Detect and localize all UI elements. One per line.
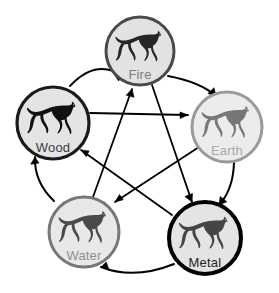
overcoming-arrow-fire-to-metal [152, 85, 193, 202]
node-label-metal: Metal [189, 255, 222, 270]
generating-arrow-metal-to-water [101, 262, 174, 273]
element-nodes: FireWoodEarthWaterMetal [17, 17, 262, 274]
overcoming-arrow-wood-to-earth [90, 112, 188, 118]
node-label-water: Water [66, 248, 102, 263]
node-label-wood: Wood [36, 140, 71, 155]
node-label-earth: Earth [211, 143, 243, 158]
diagram-canvas: FireWoodEarthWaterMetal [0, 0, 279, 293]
generating-arrow-water-to-wood [31, 157, 54, 201]
node-label-fire: Fire [128, 67, 151, 82]
element-node-wood[interactable]: Wood [17, 87, 89, 159]
element-node-fire[interactable]: Fire [106, 17, 174, 85]
generating-arrow-fire-to-earth [168, 76, 216, 96]
element-node-water[interactable]: Water [49, 197, 119, 267]
generating-arrow-earth-to-metal [219, 163, 234, 205]
five-element-cycle-diagram: FireWoodEarthWaterMetal [0, 0, 279, 293]
element-node-metal[interactable]: Metal [169, 202, 241, 274]
overcoming-arrow-water-to-fire [93, 89, 134, 197]
overcoming-cycle-edges [81, 85, 199, 215]
overcoming-arrow-earth-to-water [115, 147, 199, 202]
element-node-earth[interactable]: Earth [192, 92, 262, 162]
